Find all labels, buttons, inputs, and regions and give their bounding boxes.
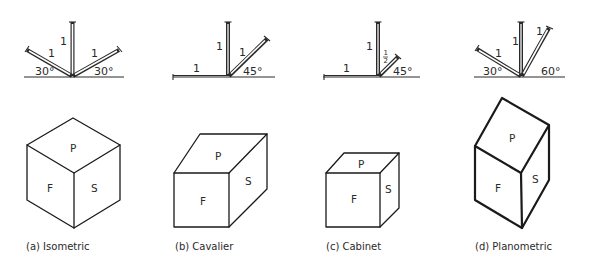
cavalier-cube: P F S — [174, 134, 267, 227]
planometric-axes: 1 1 1 30° 60° — [474, 22, 565, 78]
left-length-label: 1 — [48, 47, 55, 60]
cabinet-axes: 1 1 1 2 45° — [323, 22, 420, 80]
panel-planometric: 1 1 1 30° 60° P F S (d) Planometric — [474, 22, 565, 252]
right-length-label: 1 — [91, 47, 98, 60]
face-label-front: F — [47, 182, 53, 194]
left-angle-label: 30° — [483, 65, 503, 78]
face-label-top: P — [509, 132, 515, 144]
horizontal-length-label: 1 — [343, 62, 350, 75]
receding-length-label: 1 — [239, 46, 246, 59]
caption-cavalier: (b) Cavalier — [175, 241, 234, 252]
left-length-label: 1 — [495, 47, 502, 60]
right-angle-label: 30° — [94, 65, 114, 78]
face-label-side: S — [532, 173, 539, 185]
receding-angle-label: 45° — [243, 65, 263, 78]
receding-angle-label: 45° — [393, 65, 413, 78]
isometric-axes: 1 1 1 30° 30° — [24, 22, 124, 78]
face-label-front: F — [495, 182, 501, 194]
caption-planometric: (d) Planometric — [475, 241, 552, 252]
caption-isometric: (a) Isometric — [26, 241, 90, 252]
left-angle-label: 30° — [35, 65, 55, 78]
face-label-top: P — [215, 150, 221, 162]
vertical-length-label: 1 — [60, 35, 67, 48]
face-label-side: S — [385, 183, 392, 195]
vertical-length-label: 1 — [366, 40, 373, 53]
svg-text:1: 1 — [384, 49, 388, 57]
caption-cabinet: (c) Cabinet — [326, 241, 381, 252]
vertical-length-label: 1 — [512, 35, 519, 48]
face-label-front: F — [200, 195, 206, 207]
horizontal-length-label: 1 — [193, 62, 200, 75]
panel-cabinet: 1 1 1 2 45° P F S (c) Cabinet — [323, 22, 420, 252]
receding-length-fraction: 1 2 — [383, 49, 388, 65]
right-length-label: 1 — [536, 25, 543, 38]
panel-isometric: 1 1 1 30° 30° P F S (a) Isometric — [24, 22, 124, 252]
isometric-cube: P F S — [27, 118, 120, 228]
face-label-front: F — [351, 193, 357, 205]
face-label-top: P — [70, 142, 76, 154]
face-label-top: P — [358, 158, 364, 170]
face-label-side: S — [91, 182, 98, 194]
cabinet-cube: P F S — [326, 153, 399, 227]
cavalier-axes: 1 1 1 45° — [173, 22, 275, 80]
vertical-length-label: 1 — [216, 40, 223, 53]
projection-diagram: 1 1 1 30° 30° P F S (a) Isometric — [0, 0, 591, 259]
svg-text:2: 2 — [384, 57, 388, 65]
right-angle-label: 60° — [541, 65, 561, 78]
face-label-side: S — [245, 175, 252, 187]
panel-cavalier: 1 1 1 45° P F S (b) Cavalier — [173, 22, 275, 252]
planometric-cube: P F S — [475, 98, 549, 228]
